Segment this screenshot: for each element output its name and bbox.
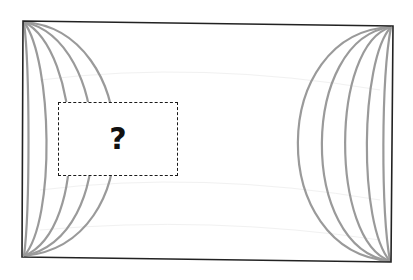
left-curve-1 [24,22,29,256]
missing-piece-box: ? [58,102,178,176]
question-mark: ? [109,124,126,154]
right-curve-4 [322,27,391,261]
right-curve-1 [383,27,391,261]
right-curve-family [298,27,391,261]
